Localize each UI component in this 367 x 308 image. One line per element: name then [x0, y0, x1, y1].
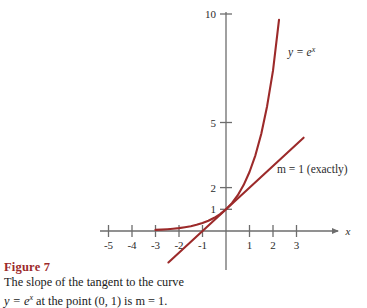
- x-tick-label: 3: [294, 239, 300, 251]
- figure-number-label: Figure 7: [4, 260, 234, 275]
- figure-container: -5 -4 -3 -2 -1 1 2 3 1 2 5 10 x y = ex: [0, 0, 367, 308]
- y-tick-label: 2: [211, 182, 217, 194]
- y-tick-label: 5: [211, 117, 217, 129]
- caption-formula-suffix: at the point (0, 1) is m = 1.: [33, 294, 167, 308]
- tangent-label-annotation: m = 1 (exactly): [277, 163, 348, 176]
- y-tick-label: 10: [205, 8, 217, 20]
- curve-label-text: y = e: [287, 46, 312, 59]
- x-tick-label: -3: [151, 239, 161, 251]
- exponential-curve: [156, 20, 280, 230]
- caption-formula-prefix: y = e: [4, 294, 29, 308]
- x-tick-label: 1: [247, 239, 253, 251]
- caption-line-2: y = ex at the point (0, 1) is m = 1.: [4, 290, 234, 308]
- y-tick-label: 1: [211, 203, 217, 215]
- x-tick-label: -4: [127, 239, 137, 251]
- x-tick-label: 2: [270, 239, 276, 251]
- tangent-line: [168, 138, 303, 263]
- x-axis-label: x: [345, 225, 351, 237]
- caption-line-1: The slope of the tangent to the curve: [4, 275, 234, 290]
- curve-label-exponent: x: [311, 45, 316, 54]
- x-tick-label: -5: [104, 239, 114, 251]
- y-axis-tick-labels: 1 2 5 10: [205, 8, 217, 215]
- x-tick-label: -1: [198, 239, 207, 251]
- x-axis-tick-labels: -5 -4 -3 -2 -1 1 2 3: [104, 239, 300, 251]
- svg-text:y = ex: y = ex: [287, 45, 316, 59]
- figure-caption-block: Figure 7 The slope of the tangent to the…: [4, 260, 234, 308]
- curve-label-annotation: y = ex: [287, 45, 316, 59]
